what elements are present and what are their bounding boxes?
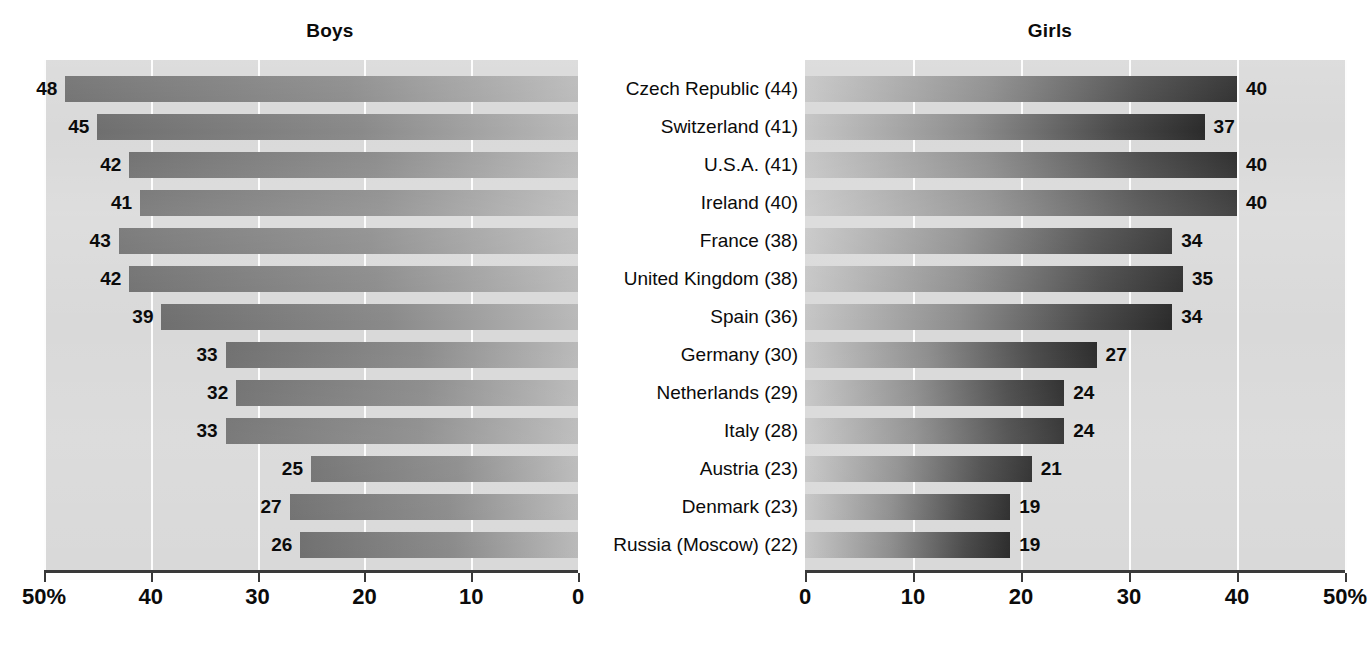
bar-girls-7 (805, 342, 1097, 368)
bar-value-girls-10: 21 (1041, 458, 1081, 480)
bar-value-boys-9: 33 (178, 420, 218, 442)
x-tick-girls-50 (1345, 573, 1347, 582)
category-label-11: Denmark (23) (586, 496, 798, 518)
x-tick-girls-0 (805, 573, 807, 582)
bar-boys-7 (226, 342, 578, 368)
panel-title-girls: Girls (950, 20, 1150, 42)
bar-value-boys-3: 41 (92, 192, 132, 214)
bar-row-girls (805, 108, 1345, 146)
category-label-2: U.S.A. (41) (586, 154, 798, 176)
x-tick-label-girls-40: 40 (1197, 584, 1277, 610)
bar-value-boys-6: 39 (113, 306, 153, 328)
bar-boys-8 (236, 380, 578, 406)
bar-value-girls-6: 34 (1181, 306, 1221, 328)
bar-value-girls-12: 19 (1019, 534, 1059, 556)
bar-girls-2 (805, 152, 1237, 178)
bar-girls-11 (805, 494, 1010, 520)
bar-boys-5 (129, 266, 578, 292)
bar-value-boys-7: 33 (178, 344, 218, 366)
bar-value-girls-1: 37 (1214, 116, 1254, 138)
bar-boys-4 (119, 228, 578, 254)
bar-value-girls-8: 24 (1073, 382, 1113, 404)
plot-area-girls (805, 60, 1345, 570)
bar-girls-4 (805, 228, 1172, 254)
bar-boys-12 (300, 532, 578, 558)
category-label-3: Ireland (40) (586, 192, 798, 214)
bar-row-boys (44, 488, 578, 526)
category-label-10: Austria (23) (586, 458, 798, 480)
x-tick-label-girls-20: 20 (981, 584, 1061, 610)
bar-value-boys-2: 42 (81, 154, 121, 176)
bar-row-boys (44, 374, 578, 412)
bar-row-boys (44, 108, 578, 146)
bar-girls-5 (805, 266, 1183, 292)
category-label-1: Switzerland (41) (586, 116, 798, 138)
x-tick-label-boys-40: 40 (111, 584, 191, 610)
x-tick-boys-50 (44, 573, 46, 582)
bar-row-boys (44, 70, 578, 108)
bar-girls-1 (805, 114, 1205, 140)
bar-boys-2 (129, 152, 578, 178)
x-tick-label-girls-10: 10 (873, 584, 953, 610)
bar-value-boys-11: 27 (242, 496, 282, 518)
bar-row-girls (805, 298, 1345, 336)
bar-value-boys-4: 43 (71, 230, 111, 252)
x-tick-label-boys-10: 10 (431, 584, 511, 610)
category-label-12: Russia (Moscow) (22) (586, 534, 798, 556)
bar-boys-1 (97, 114, 578, 140)
category-label-6: Spain (36) (586, 306, 798, 328)
bar-value-girls-7: 27 (1106, 344, 1146, 366)
category-label-column: Czech Republic (44)Switzerland (41)U.S.A… (586, 60, 798, 570)
category-label-7: Germany (30) (586, 344, 798, 366)
x-tick-label-girls-30: 30 (1089, 584, 1169, 610)
bar-girls-8 (805, 380, 1064, 406)
x-tick-label-boys-50: 50% (4, 584, 84, 610)
bar-row-boys (44, 260, 578, 298)
bar-value-girls-11: 19 (1019, 496, 1059, 518)
bar-value-girls-0: 40 (1246, 78, 1286, 100)
x-tick-girls-20 (1021, 573, 1023, 582)
x-tick-boys-40 (151, 573, 153, 582)
bar-boys-0 (65, 76, 578, 102)
category-label-5: United Kingdom (38) (586, 268, 798, 290)
paired-bar-chart-figure: Boys Girls Czech Republic (44)Switzerlan… (0, 0, 1372, 662)
x-tick-boys-20 (364, 573, 366, 582)
bar-girls-0 (805, 76, 1237, 102)
x-tick-label-boys-30: 30 (218, 584, 298, 610)
category-label-0: Czech Republic (44) (586, 78, 798, 100)
bar-row-girls (805, 222, 1345, 260)
bar-girls-10 (805, 456, 1032, 482)
bar-value-boys-1: 45 (49, 116, 89, 138)
panel-title-boys: Boys (230, 20, 430, 42)
x-tick-boys-10 (471, 573, 473, 582)
bar-value-boys-8: 32 (188, 382, 228, 404)
bar-row-boys (44, 526, 578, 564)
bar-row-boys (44, 412, 578, 450)
bar-girls-6 (805, 304, 1172, 330)
x-tick-boys-30 (258, 573, 260, 582)
x-axis-girls (805, 570, 1345, 573)
category-label-9: Italy (28) (586, 420, 798, 442)
gridline-girls-50 (1345, 60, 1347, 570)
bar-girls-3 (805, 190, 1237, 216)
bar-row-girls (805, 488, 1345, 526)
x-tick-label-girls-0: 0 (765, 584, 845, 610)
x-tick-label-girls-50: 50% (1305, 584, 1372, 610)
bar-girls-12 (805, 532, 1010, 558)
bar-boys-9 (226, 418, 578, 444)
bar-value-girls-3: 40 (1246, 192, 1286, 214)
bar-value-boys-0: 48 (17, 78, 57, 100)
bar-value-boys-5: 42 (81, 268, 121, 290)
bar-girls-9 (805, 418, 1064, 444)
bar-value-girls-4: 34 (1181, 230, 1221, 252)
x-axis-boys (44, 570, 578, 573)
x-tick-label-boys-20: 20 (324, 584, 404, 610)
bar-value-girls-2: 40 (1246, 154, 1286, 176)
bar-row-boys (44, 146, 578, 184)
x-tick-girls-40 (1237, 573, 1239, 582)
x-tick-girls-30 (1129, 573, 1131, 582)
bar-value-boys-10: 25 (263, 458, 303, 480)
bar-boys-3 (140, 190, 578, 216)
category-label-8: Netherlands (29) (586, 382, 798, 404)
bar-boys-6 (161, 304, 578, 330)
